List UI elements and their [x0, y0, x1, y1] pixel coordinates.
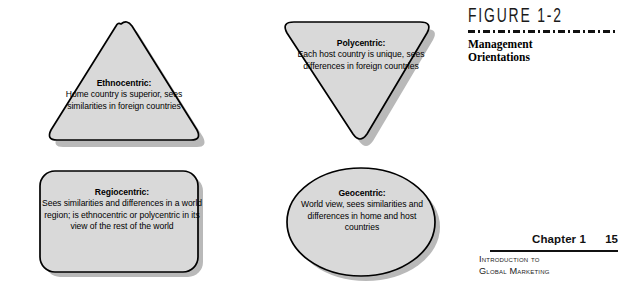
- figure-diagram: Ethnocentric: Home country is superior, …: [0, 0, 455, 308]
- shape-regiocentric: Regiocentric: Sees similarities and diff…: [34, 165, 210, 283]
- footer-chapter-row: Chapter 1 15: [490, 233, 618, 247]
- footer-caption: Introduction to Global Marketing: [479, 254, 619, 277]
- footer-page-number: 15: [605, 233, 618, 245]
- triangle-down-icon: [278, 14, 444, 154]
- figure-title: Management Orientations: [468, 38, 618, 64]
- shape-polycentric: Polycentric: Each host country is unique…: [278, 14, 444, 154]
- footer-caption-line1: Introduction to: [479, 254, 540, 264]
- shape-ethnocentric-body: Home country is superior, sees similarit…: [66, 89, 182, 110]
- shape-regiocentric-heading: Regiocentric:: [95, 187, 149, 197]
- figure-number: FIGURE 1-2: [468, 4, 563, 28]
- shape-regiocentric-label: Regiocentric: Sees similarities and diff…: [34, 187, 210, 233]
- page-canvas: Ethnocentric: Home country is superior, …: [0, 0, 626, 308]
- shape-polycentric-label: Polycentric: Each host country is unique…: [278, 38, 444, 72]
- footer-chapter-label: Chapter 1: [532, 233, 586, 245]
- shape-geocentric-label: Geocentric: World view, sees similaritie…: [280, 188, 444, 234]
- figure-caption-column: FIGURE 1-2 Management Orientations Chapt…: [455, 0, 626, 308]
- figure-title-line2: Orientations: [468, 51, 530, 63]
- shape-ethnocentric-heading: Ethnocentric:: [97, 78, 152, 88]
- footer-caption-line2: Global Marketing: [479, 266, 550, 276]
- shape-polycentric-heading: Polycentric:: [337, 38, 386, 48]
- shape-geocentric: Geocentric: World view, sees similaritie…: [280, 160, 444, 284]
- shape-ethnocentric: Ethnocentric: Home country is superior, …: [38, 14, 210, 154]
- shape-geocentric-heading: Geocentric:: [338, 188, 385, 198]
- shape-regiocentric-body: Sees similarities and differences in a w…: [42, 198, 202, 231]
- footer-rule: [490, 250, 618, 252]
- figure-title-line1: Management: [468, 38, 533, 50]
- figure-dashed-rule: [468, 30, 615, 33]
- shape-geocentric-body: World view, sees similarities and differ…: [301, 199, 423, 232]
- shape-polycentric-body: Each host country is unique, sees differ…: [298, 49, 425, 70]
- shape-ethnocentric-label: Ethnocentric: Home country is superior, …: [38, 78, 210, 112]
